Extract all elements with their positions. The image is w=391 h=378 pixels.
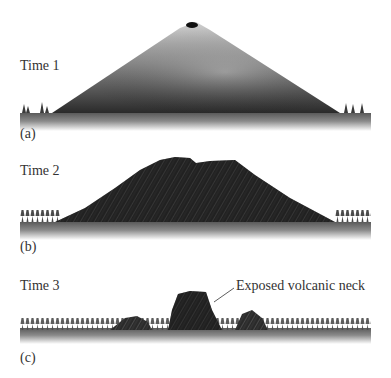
time-label-3: Time 3 [20, 278, 60, 294]
panel-label-b: (b) [20, 239, 36, 255]
panel-a [20, 22, 371, 131]
panel-b [20, 157, 371, 240]
volcano-diagram [0, 0, 391, 378]
time-label-1: Time 1 [20, 58, 60, 74]
ground-band [20, 328, 371, 344]
forest-left [20, 210, 60, 222]
summit-crater [186, 22, 198, 28]
panel-label-a: (a) [20, 126, 36, 142]
annotation-label: Exposed volcanic neck [236, 278, 365, 294]
annotation-leader-line [214, 288, 234, 302]
ground-band [20, 113, 371, 131]
panel-c [20, 288, 371, 344]
time-label-2: Time 2 [20, 163, 60, 179]
ground-band [20, 222, 371, 240]
panel-label-c: (c) [20, 350, 36, 366]
forest-right [335, 210, 371, 222]
